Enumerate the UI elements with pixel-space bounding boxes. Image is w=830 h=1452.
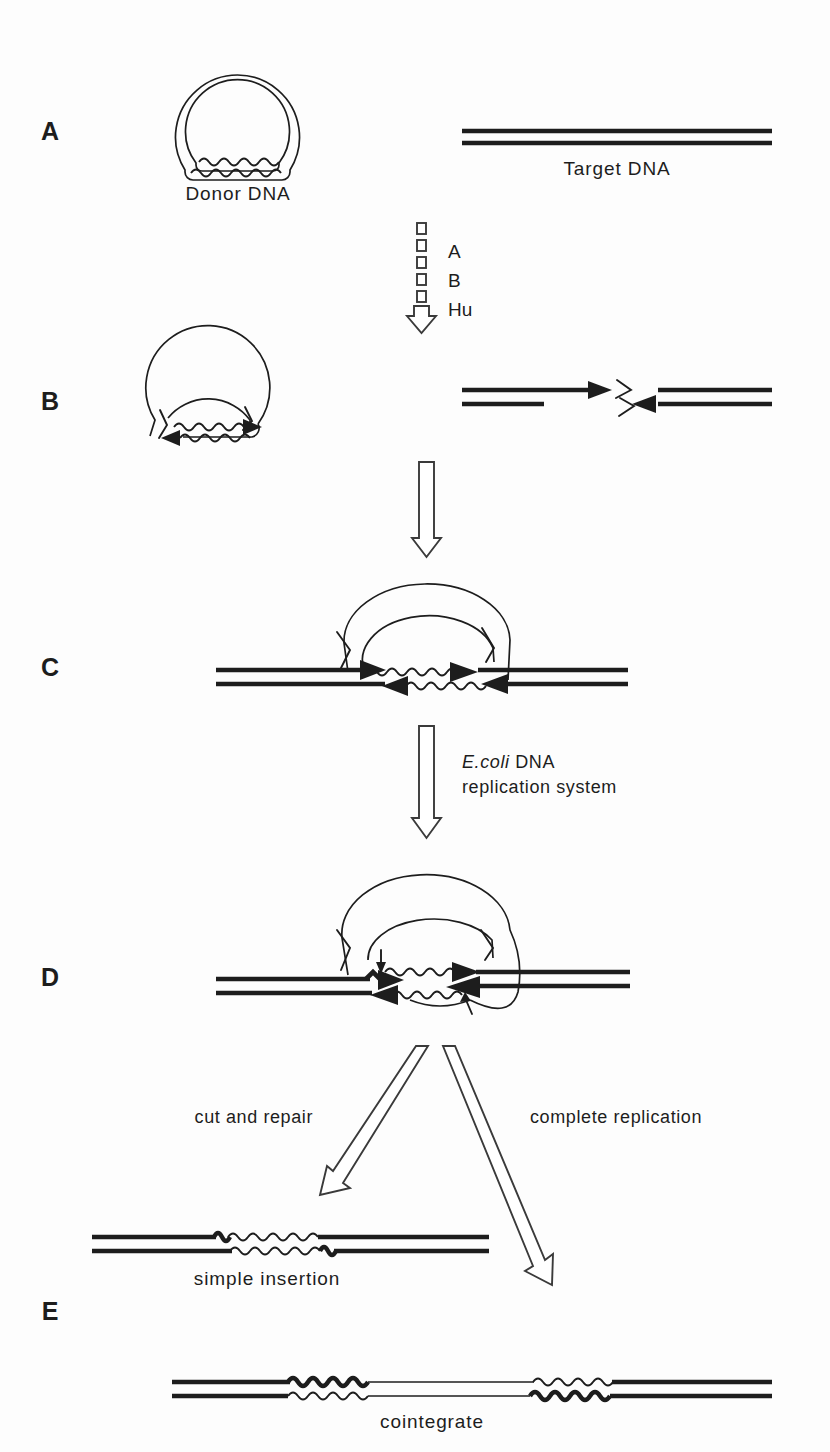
- transposase-step-arrow: [407, 223, 436, 333]
- panel-c-transposon-wave-bottom: [406, 683, 486, 690]
- step-arrowhead-ab: [407, 306, 436, 333]
- figure-root: A B C D E Donor DNA Target DNA: [0, 0, 830, 1452]
- branch-label-right: complete replication: [530, 1107, 702, 1127]
- panel-c-group: [216, 584, 628, 696]
- cointegrate-wave-left-bottom: [288, 1393, 368, 1400]
- cut-and-repair-arrow: [320, 1046, 428, 1195]
- panel-b-transposon-wave-top: [174, 424, 244, 431]
- panel-letter-a: A: [41, 117, 59, 145]
- panel-a-group: Donor DNA Target DNA: [176, 75, 773, 204]
- panel-b-stagger-chevron-bottom: [619, 398, 634, 416]
- factor-label-b: B: [448, 270, 461, 291]
- dash-segment-3: [417, 257, 426, 268]
- donor-transposon-wave-top: [199, 159, 279, 166]
- step-arrow-bc: [412, 462, 441, 557]
- strand-transfer-arrow: [412, 462, 441, 557]
- panel-c-arrow-transposon-left: [382, 676, 408, 696]
- panel-letter-b: B: [41, 387, 59, 415]
- factor-label-a: A: [448, 241, 461, 262]
- simple-insertion-wave-bottom: [230, 1248, 320, 1255]
- panel-letter-c: C: [41, 653, 59, 681]
- branch-label-left: cut and repair: [195, 1107, 313, 1127]
- factor-label-hu: Hu: [448, 299, 472, 320]
- replication-step-arrow: [412, 726, 441, 838]
- replication-label-line2: replication system: [462, 777, 617, 797]
- target-dna-duplex: [462, 131, 772, 143]
- panel-b-stagger-chevron-top: [616, 380, 631, 398]
- cointegrate-wave-right-top: [533, 1379, 613, 1386]
- donor-dna-circle: [176, 75, 300, 180]
- target-dna-caption: Target DNA: [563, 158, 670, 179]
- panel-b-transposon-wave-bottom: [180, 435, 250, 442]
- branch-arrow-left: [320, 1046, 428, 1195]
- dash-segment-1: [417, 223, 426, 234]
- simple-insertion-wave-top: [228, 1234, 318, 1241]
- panel-c-arrow-transposon-right: [450, 662, 478, 682]
- panel-d-wave-upper: [385, 969, 455, 976]
- panel-b-group: [146, 326, 772, 446]
- replication-label-line1: E.coli DNA: [462, 752, 555, 772]
- panel-c-loop-inner: [363, 616, 494, 672]
- panel-d-loop-inner: [368, 919, 493, 960]
- cointegrate-wave-left-top: [288, 1378, 368, 1386]
- simple-insertion-product: [92, 1233, 489, 1255]
- panel-letter-e: E: [42, 1297, 59, 1325]
- panel-letter-d: D: [41, 963, 59, 991]
- panel-b-target-arrow-left: [632, 395, 656, 413]
- panel-d-wave-lower: [392, 992, 462, 999]
- panel-d-group: [216, 875, 630, 1014]
- ecoli-italic: E.coli: [462, 752, 510, 772]
- panel-d-arrow-lower-right: [378, 970, 404, 990]
- dash-segment-4: [417, 274, 426, 285]
- panel-b-donor-inner-strand: [168, 399, 250, 430]
- panel-b-target-duplex: [462, 380, 772, 416]
- cointegrate-caption: cointegrate: [380, 1411, 484, 1432]
- transposition-diagram: A B C D E Donor DNA Target DNA: [0, 0, 830, 1452]
- fork-arrow-lower-stem: [466, 1000, 472, 1014]
- dash-segment-5: [417, 291, 426, 302]
- simple-insertion-junction-left: [214, 1233, 230, 1241]
- panel-c-arrow-left-top: [360, 660, 386, 680]
- panel-b-arrowhead-left: [161, 430, 180, 446]
- panel-c-nick-right: [482, 628, 494, 662]
- cointegrate-wave-right-bottom: [530, 1392, 610, 1400]
- simple-insertion-caption: simple insertion: [194, 1268, 340, 1289]
- ecoli-rest: DNA: [510, 752, 555, 772]
- dash-segment-2: [417, 240, 426, 251]
- donor-dna-caption: Donor DNA: [185, 183, 290, 204]
- panel-b-target-arrow-right: [588, 381, 612, 399]
- panel-c-arrow-right-bottom: [481, 674, 508, 694]
- simple-insertion-junction-right: [320, 1247, 336, 1255]
- donor-inner-strand: [185, 80, 289, 171]
- cointegrate-product: [172, 1378, 772, 1400]
- panel-b-nick-left: [159, 410, 167, 438]
- panel-d-arrow-lower-left: [370, 985, 398, 1005]
- step-arrow-cd: [412, 726, 441, 838]
- panel-b-donor-circle: [146, 326, 270, 446]
